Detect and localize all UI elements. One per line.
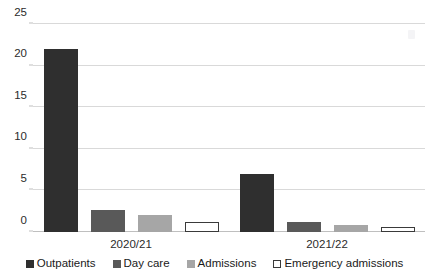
legend-swatch-icon [273,260,281,268]
bar-emergency-admissions[interactable] [185,222,219,232]
legend-item-day-care[interactable]: Day care [113,258,170,270]
bar-day-care[interactable] [287,222,321,232]
y-axis-tick-label: 5 [21,173,27,185]
bar-admissions[interactable] [138,215,172,232]
x-axis-tick-label: 2020/21 [33,239,229,251]
bar-outpatients[interactable] [44,49,78,232]
legend-swatch-icon [113,260,121,268]
bar-group: 2021/22 [229,24,425,232]
chart-legend: OutpatientsDay careAdmissionsEmergency a… [0,258,429,270]
bar-admissions[interactable] [334,225,368,232]
legend-item-outpatients[interactable]: Outpatients [26,258,96,270]
y-axis-tick-label: 0 [21,215,27,227]
legend-swatch-icon [26,260,34,268]
legend-item-emergency-admissions[interactable]: Emergency admissions [273,258,403,270]
plot-area: 0510152025 2020/212021/22 [33,24,425,232]
bar-group-bars [229,24,425,232]
legend-swatch-icon [187,260,195,268]
y-axis-tick-label: 25 [14,7,27,19]
y-axis-tick-label: 10 [14,132,27,144]
y-axis-tick-label: 15 [14,90,27,102]
bar-day-care[interactable] [91,210,125,232]
legend-item-label: Outpatients [37,258,96,270]
legend-item-label: Day care [124,258,170,270]
bar-groups: 2020/212021/22 [33,24,425,232]
bar-group: 2020/21 [33,24,229,232]
legend-item-admissions[interactable]: Admissions [187,258,257,270]
x-axis-tick-label: 2021/22 [229,239,425,251]
legend-item-label: Emergency admissions [284,258,403,270]
y-axis-tick-label: 20 [14,48,27,60]
bar-group-bars [33,24,229,232]
bar-chart: 0510152025 2020/212021/22 OutpatientsDay… [0,0,429,278]
bar-emergency-admissions[interactable] [381,227,415,232]
legend-item-label: Admissions [198,258,257,270]
bar-outpatients[interactable] [240,174,274,232]
